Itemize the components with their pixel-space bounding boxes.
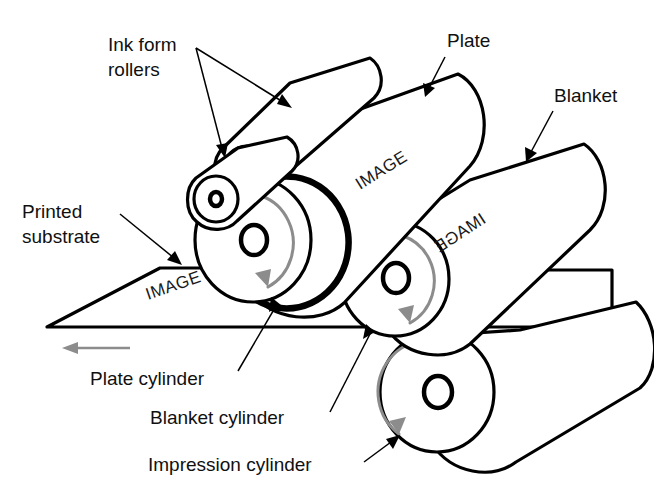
feed-arrowhead [62,342,78,354]
label-printed-substrate-line2: substrate [22,226,100,247]
label-blanket: Blanket [554,85,618,106]
substrate-feed-direction-arrow [62,342,130,354]
label-plate: Plate [447,30,490,51]
label-ink-form-rollers-line1: Ink form [108,34,177,55]
leader-arrowhead-substrate [167,251,182,265]
leader-blanket-cylinder [330,324,375,412]
ink-form-roller-lower-hub [210,192,222,206]
offset-press-diagram: IMAGE IMAGE [0,0,654,499]
label-ink-form-rollers-line2: rollers [108,59,160,80]
diagram-canvas: IMAGE IMAGE [0,0,654,499]
blanket-cylinder-hub [383,263,409,293]
label-plate-cylinder: Plate cylinder [90,368,205,389]
impression-cylinder-hub [424,376,452,408]
leader-printed-substrate [120,214,182,265]
leader-arrowhead-impression-cylinder [386,435,400,449]
leader-ink-form-rollers-upper [196,48,292,108]
label-blanket-cylinder: Blanket cylinder [150,407,285,428]
label-impression-cylinder: Impression cylinder [148,454,312,475]
leader-impression-cylinder [364,435,400,462]
plate-cylinder-hub [241,225,267,255]
label-printed-substrate-line1: Printed [22,201,82,222]
